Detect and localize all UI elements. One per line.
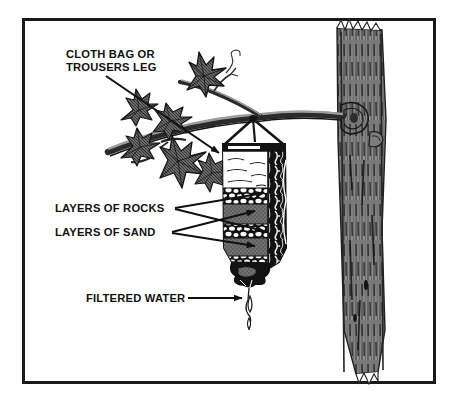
water-drop xyxy=(246,288,252,330)
label-layers-of-rocks: LAYERS OF ROCKS xyxy=(55,202,165,215)
tree-trunk xyxy=(337,19,386,384)
leaf xyxy=(187,52,226,97)
illustration-page: CLOTH BAG OR TROUSERS LEG LAYERS OF ROCK… xyxy=(0,0,462,405)
filter-bag xyxy=(223,144,288,287)
label-filtered-water: FILTERED WATER xyxy=(86,292,185,305)
trunk-stub xyxy=(369,132,383,147)
bag-bottom-tie xyxy=(231,262,270,287)
label-cloth-bag: CLOTH BAG OR TROUSERS LEG xyxy=(66,48,157,74)
label-layers-of-sand: LAYERS OF SAND xyxy=(55,226,156,239)
